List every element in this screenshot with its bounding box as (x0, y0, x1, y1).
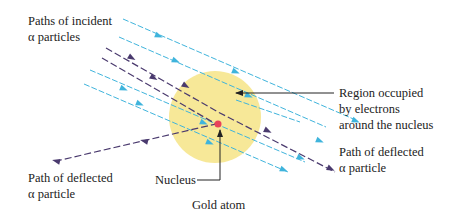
label-line: Region occupied (339, 85, 433, 101)
label-electron-region: Region occupied by electrons around the … (339, 85, 433, 133)
label-incident-paths: Paths of incident α particles (28, 13, 112, 45)
label-line: Path of deflected (28, 170, 113, 186)
rutherford-diagram: Paths of incident α particles Region occ… (0, 0, 462, 218)
label-line: α particle (339, 160, 424, 176)
label-line: by electrons (339, 101, 433, 117)
label-gold-atom: Gold atom (192, 197, 245, 213)
label-nucleus: Nucleus (155, 172, 196, 188)
label-line: Nucleus (155, 172, 196, 188)
label-line: α particle (28, 186, 113, 202)
label-line: around the nucleus (339, 117, 433, 133)
label-line: Gold atom (192, 197, 245, 213)
label-deflected-left: Path of deflected α particle (28, 170, 113, 202)
label-line: Path of deflected (339, 144, 424, 160)
label-deflected-right: Path of deflected α particle (339, 144, 424, 176)
label-line: Paths of incident (28, 13, 112, 29)
label-line: α particles (28, 29, 112, 45)
nucleus-dot (215, 121, 222, 128)
